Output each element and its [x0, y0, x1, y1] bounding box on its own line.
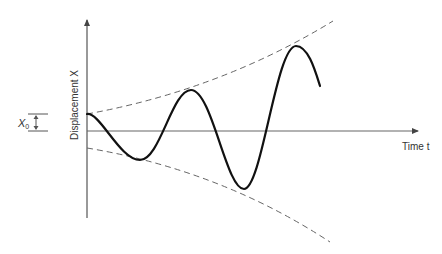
- upper-envelope: [87, 21, 333, 114]
- displacement-curve: [87, 46, 320, 189]
- lower-envelope: [87, 148, 330, 242]
- amplitude-arrowhead-up-icon: [34, 115, 39, 119]
- x-axis-label: Time t: [402, 141, 430, 152]
- amplitude-arrowhead-down-icon: [34, 126, 39, 130]
- amplitude-label: X0: [17, 117, 29, 130]
- y-axis-label: Displacement X: [69, 70, 80, 140]
- oscillation-diagram: X0 Displacement X Time t: [0, 0, 442, 254]
